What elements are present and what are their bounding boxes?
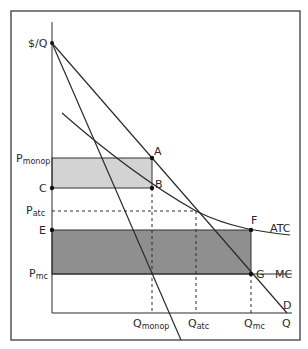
point-f-label: F [251, 214, 257, 227]
p-atc-label: Patc [26, 204, 45, 218]
point-b [150, 186, 154, 190]
c-label: C [39, 182, 47, 195]
q-monop-label: Qmonop [133, 317, 169, 331]
demand-label: D [283, 299, 291, 312]
point-a-label: A [154, 145, 162, 158]
point-g [249, 272, 253, 276]
q-atc-label: Qatc [188, 317, 209, 331]
y-axis-label: $/Q [28, 37, 48, 50]
point-b-label: B [155, 178, 163, 191]
p-monop-label: Pmonop [16, 152, 50, 166]
point-c [50, 186, 54, 190]
q-mc-label: Qmc [244, 317, 265, 331]
intercept-point [50, 41, 54, 45]
atc-label: ATC [270, 222, 291, 235]
e-label: E [39, 224, 46, 237]
marginal-revenue-curve [52, 43, 181, 340]
monopoly-diagram: $/Q Q ATC MC D A B F G Pmonop C Patc E P… [0, 0, 308, 349]
point-e [50, 228, 54, 232]
p-mc-label: Pmc [29, 267, 48, 281]
point-f [249, 228, 253, 232]
mc-label: MC [275, 268, 292, 281]
point-g-label: G [256, 268, 265, 281]
x-axis-label: Q [282, 317, 291, 330]
